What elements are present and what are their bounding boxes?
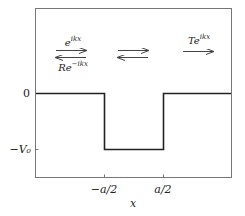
square-well-diagram: 0 −V₀ −a/2 a/2 x eikx Re−ikx Teikx: [0, 0, 245, 216]
x-axis-label: x: [130, 197, 137, 210]
potential-curve: [36, 94, 231, 150]
reflected-wave-label: Re−ikx: [57, 60, 88, 73]
y-tick-label-v0: −V₀: [9, 143, 31, 156]
transmitted-wave-label: Teikx: [188, 33, 210, 46]
x-tick-label-pos-a-half: a/2: [154, 183, 171, 196]
x-tick-label-neg-a-half: −a/2: [91, 183, 117, 196]
y-tick-label-zero: 0: [23, 87, 30, 100]
incident-wave-label: eikx: [65, 35, 81, 48]
